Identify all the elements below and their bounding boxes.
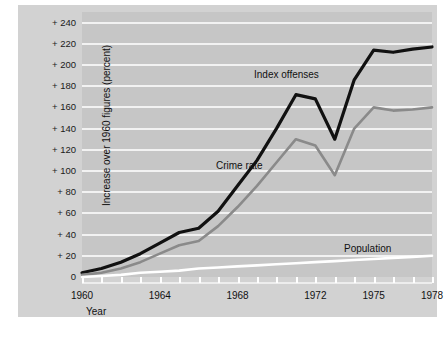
x-tick-label: 1972 (295, 290, 335, 301)
x-tick-mark (121, 277, 123, 283)
series-label-index-offenses: Index offenses (254, 69, 319, 80)
chart-figure: 0+ 20+ 40+ 60+ 80+ 100+ 120+ 140+ 160+ 1… (18, 5, 437, 317)
x-tick-mark (82, 277, 84, 283)
series-line-population (82, 256, 432, 277)
y-tick-label: 0 (30, 271, 76, 282)
x-tick-mark (315, 277, 317, 283)
y-tick-label: + 140 (30, 123, 76, 134)
x-tick-mark (393, 277, 395, 283)
x-tick-label: 1978 (412, 290, 446, 301)
plot-area (82, 12, 432, 277)
x-tick-mark (296, 277, 298, 283)
y-tick-label: + 180 (30, 80, 76, 91)
y-tick-label: + 120 (30, 144, 76, 155)
series-label-population: Population (344, 243, 391, 254)
x-tick-label: 1975 (354, 290, 394, 301)
x-tick-mark (354, 277, 356, 283)
y-tick-label: + 40 (30, 229, 76, 240)
x-tick-mark (160, 277, 162, 283)
x-tick-mark (140, 277, 142, 283)
y-tick-label: + 100 (30, 165, 76, 176)
series-label-crime-rate: Crime rate (216, 160, 263, 171)
x-tick-mark (218, 277, 220, 283)
x-tick-mark (374, 277, 376, 283)
x-tick-mark (199, 277, 201, 283)
x-tick-mark (413, 277, 415, 283)
y-axis-title: Increase over 1960 figures (percent) (101, 26, 112, 226)
x-tick-mark (335, 277, 337, 283)
x-tick-mark (276, 277, 278, 283)
series-lines (82, 12, 432, 277)
y-tick-label: + 20 (30, 250, 76, 261)
x-tick-mark (432, 277, 434, 283)
y-tick-label: + 80 (30, 186, 76, 197)
x-tick-label: 1968 (218, 290, 258, 301)
x-tick-label: 1964 (140, 290, 180, 301)
y-tick-label: + 60 (30, 207, 76, 218)
x-tick-mark (101, 277, 103, 283)
x-tick-mark (238, 277, 240, 283)
x-axis-title: Year (86, 306, 106, 317)
x-tick-mark (179, 277, 181, 283)
y-tick-label: + 240 (30, 17, 76, 28)
y-tick-label: + 160 (30, 101, 76, 112)
x-tick-mark (257, 277, 259, 283)
plot-frame: 0+ 20+ 40+ 60+ 80+ 100+ 120+ 140+ 160+ 1… (82, 12, 432, 282)
y-tick-label: + 220 (30, 38, 76, 49)
x-tick-label: 1960 (62, 290, 102, 301)
y-tick-label: + 200 (30, 59, 76, 70)
